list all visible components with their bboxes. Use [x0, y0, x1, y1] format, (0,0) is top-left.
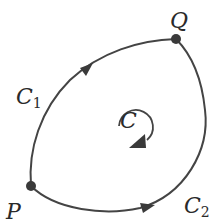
label-p: P [5, 199, 22, 223]
label-q: Q [170, 8, 188, 33]
point-p [26, 181, 36, 191]
label-c2-main: C [184, 193, 201, 218]
label-c2: C2 [184, 193, 210, 220]
label-c1-sub: 1 [33, 95, 42, 111]
clockwise-arrow-icon [129, 134, 146, 148]
label-c1-main: C [16, 84, 33, 109]
c2-direction-arrow-icon [140, 203, 155, 213]
label-c2-sub: 2 [201, 204, 210, 220]
path-c1 [31, 39, 176, 186]
curve-diagram: Q P C1 C2 C [0, 0, 220, 223]
label-c: C [120, 108, 137, 133]
point-q [171, 34, 181, 44]
label-c1: C1 [16, 84, 42, 111]
c1-direction-arrow-icon [80, 63, 93, 76]
